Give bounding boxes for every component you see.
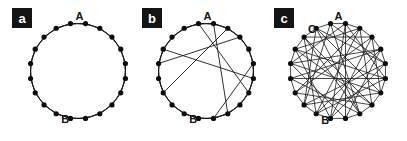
- graph-edge: [159, 37, 240, 63]
- graph-node-18: [169, 34, 174, 39]
- graph-node-15: [288, 76, 293, 81]
- graph-node-6: [123, 76, 128, 81]
- network-diagram-canvas: ABaABbACBc: [0, 0, 407, 141]
- graph-node-6: [251, 76, 256, 81]
- graph-node-8: [237, 102, 242, 107]
- panel-a: ABa: [12, 8, 128, 125]
- graph-node-15: [156, 76, 161, 81]
- graph-node-16: [28, 61, 33, 66]
- graph-node-3: [369, 34, 374, 39]
- graph-edge: [316, 28, 385, 63]
- graph-node-4: [118, 47, 123, 52]
- graph-node-3: [109, 34, 114, 39]
- vertex-label-a: A: [76, 10, 84, 22]
- graph-node-2: [97, 26, 102, 31]
- graph-node-5: [123, 61, 128, 66]
- graph-node-0: [328, 21, 333, 26]
- graph-node-18: [301, 34, 306, 39]
- panel-badge-label-c: c: [280, 11, 287, 26]
- vertex-label-b: B: [61, 113, 69, 125]
- panel-b-nodes: [156, 21, 256, 121]
- graph-node-17: [161, 47, 166, 52]
- graph-edge: [291, 49, 381, 63]
- panel-b: ABb: [142, 8, 256, 125]
- graph-node-14: [161, 90, 166, 95]
- graph-node-1: [343, 21, 348, 26]
- panel-a-nodes: [28, 21, 128, 121]
- graph-edge: [295, 93, 372, 105]
- graph-node-6: [383, 76, 388, 81]
- panel-badge-label-b: b: [148, 11, 156, 26]
- graph-node-10: [211, 116, 216, 121]
- vertex-label-b: B: [189, 113, 197, 125]
- vertex-label-b: B: [321, 114, 329, 126]
- graph-node-10: [343, 116, 348, 121]
- graph-node-7: [246, 90, 251, 95]
- panel-badge-c: c: [274, 8, 294, 28]
- graph-node-7: [118, 90, 123, 95]
- graph-node-8: [369, 102, 374, 107]
- graph-node-16: [156, 61, 161, 66]
- graph-node-14: [33, 90, 38, 95]
- graph-node-9: [225, 111, 230, 116]
- graph-node-14: [293, 90, 298, 95]
- vertex-label-c: C: [308, 23, 316, 35]
- graph-node-4: [246, 47, 251, 52]
- graph-node-19: [182, 26, 187, 31]
- graph-node-1: [211, 21, 216, 26]
- graph-node-0: [196, 21, 201, 26]
- graph-node-9: [97, 111, 102, 116]
- graph-node-12: [182, 111, 187, 116]
- graph-edge: [214, 24, 228, 114]
- panel-c: ACBc: [274, 8, 388, 126]
- graph-edge: [163, 49, 253, 78]
- graph-node-12: [314, 111, 319, 116]
- graph-node-9: [357, 111, 362, 116]
- graph-node-8: [109, 102, 114, 107]
- graph-edge: [198, 24, 248, 93]
- graph-node-16: [288, 61, 293, 66]
- graph-node-7: [378, 90, 383, 95]
- graph-node-12: [54, 111, 59, 116]
- graph-node-17: [33, 47, 38, 52]
- panel-badge-b: b: [142, 8, 162, 28]
- graph-node-13: [41, 102, 46, 107]
- graph-node-15: [28, 76, 33, 81]
- graph-node-13: [301, 102, 306, 107]
- graph-node-0: [68, 21, 73, 26]
- graph-node-13: [169, 102, 174, 107]
- graph-node-2: [225, 26, 230, 31]
- graph-node-5: [251, 61, 256, 66]
- graph-node-18: [41, 34, 46, 39]
- panel-badge-a: a: [12, 8, 32, 28]
- graph-node-1: [83, 21, 88, 26]
- vertex-label-a: A: [335, 10, 343, 22]
- panel-badge-label-a: a: [18, 11, 26, 26]
- graph-node-2: [357, 26, 362, 31]
- vertex-label-a: A: [204, 10, 212, 22]
- graph-node-4: [378, 47, 383, 52]
- small-world-network-figure: ABaABbACBc: [0, 0, 407, 141]
- graph-node-19: [54, 26, 59, 31]
- graph-node-3: [237, 34, 242, 39]
- graph-node-5: [383, 61, 388, 66]
- graph-edge: [360, 28, 372, 105]
- graph-node-10: [83, 116, 88, 121]
- graph-node-17: [293, 47, 298, 52]
